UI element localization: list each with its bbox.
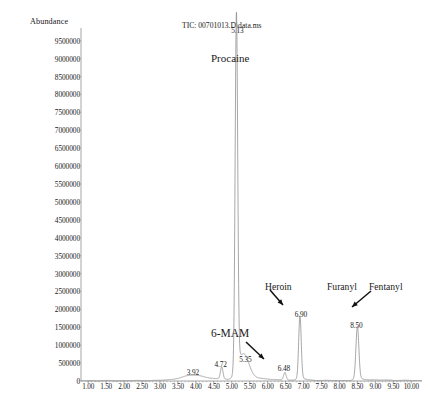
annotation-furanyl: Furanyl [327, 281, 357, 292]
annotation-fentanyl: Fentanyl [369, 281, 403, 292]
annotation-procaine: Procaine [211, 52, 249, 64]
arrow-6-mam [246, 342, 264, 359]
annotation-6-mam: 6-MAM [211, 327, 249, 339]
annotation-heroin: Heroin [265, 281, 292, 292]
arrow-heroin [270, 290, 283, 305]
chromatogram-chart: Abundance TIC: 00701013.D\data.ms 050000… [0, 0, 429, 415]
arrow-furanyl-fentanyl [352, 291, 371, 307]
